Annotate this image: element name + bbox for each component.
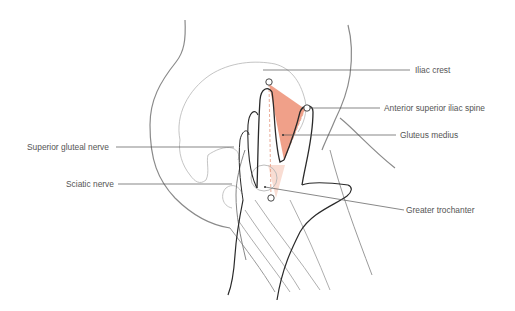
femoral-head-outline [223, 186, 242, 208]
iliac-crest-landmark [266, 79, 272, 85]
label-asis: Anterior superior iliac spine [384, 103, 485, 113]
body-contour-left [150, 20, 230, 228]
ischium-outline [179, 140, 208, 182]
label-gluteus-medius: Gluteus medius [400, 130, 458, 140]
body-contour-right [322, 25, 351, 150]
thigh-contour-lower [330, 150, 372, 275]
hand-ring-finger [248, 112, 258, 188]
greater-trochanter-landmark [268, 195, 274, 201]
anatomy-diagram [0, 0, 515, 311]
label-sciatic-nerve: Sciatic nerve [66, 179, 114, 189]
triangle-dashed-left [269, 84, 271, 198]
femur-line-3 [238, 220, 290, 292]
thigh-front-contour [340, 118, 395, 168]
hand-palm-edge [228, 200, 243, 295]
femur-line-4 [290, 200, 330, 290]
sacrum-outline [208, 147, 239, 160]
label-iliac-crest: Iliac crest [415, 65, 450, 75]
greater-trochanter-dot [264, 186, 266, 188]
gluteus-medius-dot [282, 134, 284, 136]
hand-thumb [277, 183, 351, 300]
label-superior-gluteal-nerve: Superior gluteal nerve [27, 142, 109, 152]
leader-greater-trochanter [265, 187, 404, 210]
label-greater-trochanter: Greater trochanter [406, 205, 474, 215]
asis-landmark [304, 105, 310, 111]
